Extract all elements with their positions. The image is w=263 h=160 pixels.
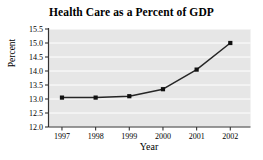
y-axis-tick-label: 15.0 (29, 39, 43, 48)
x-axis-tick-label: 1999 (121, 132, 137, 141)
y-axis-tick-label: 13.5 (29, 81, 43, 90)
x-axis-tick-label: 2000 (155, 132, 171, 141)
data-point-marker (161, 87, 165, 91)
data-point-marker (228, 41, 232, 45)
plot-area: 12.012.513.013.514.014.515.015.519971998… (0, 0, 263, 160)
data-point-marker (60, 96, 64, 100)
plot-background (49, 29, 251, 127)
y-axis-tick-label: 15.5 (29, 25, 43, 34)
data-point-marker (195, 68, 199, 72)
chart-container: Health Care as a Percent of GDP Percent … (0, 0, 263, 160)
y-axis-tick-label: 13.0 (29, 95, 43, 104)
y-axis-tick-label: 14.5 (29, 53, 43, 62)
y-axis-tick-label: 12.0 (29, 123, 43, 132)
data-point-marker (127, 94, 131, 98)
x-axis-tick-label: 1998 (88, 132, 104, 141)
x-axis-tick-label: 2001 (189, 132, 205, 141)
x-axis-tick-label: 2002 (222, 132, 238, 141)
y-axis-tick-label: 14.0 (29, 67, 43, 76)
x-axis-tick-label: 1997 (54, 132, 70, 141)
y-axis-tick-label: 12.5 (29, 109, 43, 118)
data-point-marker (94, 96, 98, 100)
